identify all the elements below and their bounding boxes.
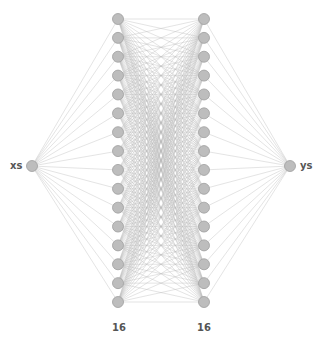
neuron-node xyxy=(199,127,210,138)
neuron-node xyxy=(199,32,210,43)
neuron-node xyxy=(199,278,210,289)
output-label: ys xyxy=(300,160,312,171)
neuron-node xyxy=(113,221,124,232)
neuron-node xyxy=(199,202,210,213)
neuron-node xyxy=(199,240,210,251)
neuron-node xyxy=(113,32,124,43)
hidden1-count-label: 16 xyxy=(112,322,126,333)
neuron-node xyxy=(113,14,124,25)
neuron-node xyxy=(113,278,124,289)
input-label: xs xyxy=(10,160,22,171)
neuron-node xyxy=(199,89,210,100)
hidden2-count-label: 16 xyxy=(197,322,211,333)
neuron-node xyxy=(285,161,296,172)
neuron-node xyxy=(199,297,210,308)
neuron-node xyxy=(27,161,38,172)
neuron-node xyxy=(113,108,124,119)
neuron-node xyxy=(113,164,124,175)
neuron-node xyxy=(113,240,124,251)
neuron-node xyxy=(199,183,210,194)
neuron-node xyxy=(199,51,210,62)
neuron-node xyxy=(199,70,210,81)
neuron-node xyxy=(199,259,210,270)
neuron-node xyxy=(113,51,124,62)
neuron-node xyxy=(113,202,124,213)
neuron-node xyxy=(199,221,210,232)
neuron-node xyxy=(199,108,210,119)
neuron-node xyxy=(113,146,124,157)
neuron-node xyxy=(113,70,124,81)
neuron-node xyxy=(199,14,210,25)
neuron-node xyxy=(113,89,124,100)
network-diagram xyxy=(0,0,324,347)
neuron-node xyxy=(113,183,124,194)
neuron-node xyxy=(113,297,124,308)
edges xyxy=(32,19,290,302)
neuron-node xyxy=(199,164,210,175)
neuron-node xyxy=(113,259,124,270)
neuron-node xyxy=(113,127,124,138)
neuron-node xyxy=(199,146,210,157)
